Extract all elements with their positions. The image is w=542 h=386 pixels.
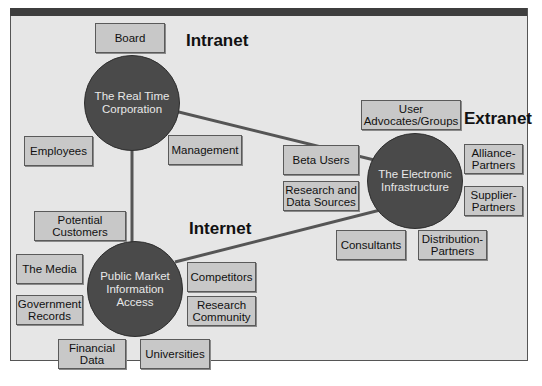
box-distribution-partners: Distribution- Partners (418, 230, 487, 260)
hub-real-time-corporation: The Real Time Corporation (84, 55, 180, 151)
box-beta-users: Beta Users (283, 145, 359, 175)
box-the-media: The Media (16, 254, 83, 284)
label-intranet: Intranet (186, 31, 248, 51)
box-user-advocates: User Advocates/Groups (361, 100, 461, 130)
box-competitors: Competitors (187, 262, 256, 292)
box-government-records: Government Records (16, 295, 83, 325)
box-research-data-sources: Research and Data Sources (283, 181, 359, 211)
box-research-community: Research Community (187, 296, 256, 326)
box-management: Management (168, 135, 242, 165)
label-internet: Internet (189, 219, 251, 239)
hub-public-market-access: Public Market Information Access (87, 241, 183, 337)
hub-electronic-infrastructure: The Electronic Infrastructure (367, 133, 463, 229)
box-potential-customers: Potential Customers (34, 211, 126, 241)
box-financial-data: Financial Data (58, 339, 126, 369)
box-universities: Universities (140, 339, 210, 369)
box-alliance-partners: Alliance- Partners (464, 144, 523, 174)
label-extranet: Extranet (464, 109, 532, 129)
box-employees: Employees (24, 136, 93, 166)
box-board: Board (95, 23, 165, 53)
box-consultants: Consultants (336, 230, 406, 260)
box-supplier-partners: Supplier- Partners (464, 186, 523, 216)
